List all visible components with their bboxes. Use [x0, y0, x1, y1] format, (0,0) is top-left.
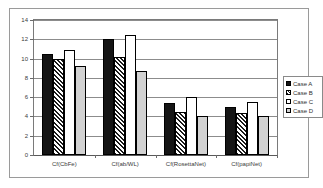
bar — [64, 50, 75, 155]
bar — [236, 113, 247, 155]
y-axis-tick-label: 4 — [25, 113, 28, 119]
bar — [197, 116, 208, 155]
legend-swatch-icon — [286, 90, 291, 95]
legend-item[interactable]: Case B — [286, 88, 321, 97]
legend-item[interactable]: Case A — [286, 79, 321, 88]
legend-label: Case B — [293, 90, 313, 96]
bar — [53, 59, 64, 155]
y-axis-tick-label: 14 — [21, 17, 28, 23]
y-axis-tick-label: 2 — [25, 133, 28, 139]
x-axis-label: Cf(RosettaNet) — [166, 161, 206, 167]
chart-frame: 02468101214 Cf(CbFe)Cf(ab/WL)Cf(RosettaN… — [9, 8, 309, 178]
bar — [247, 102, 258, 155]
bar — [75, 66, 86, 155]
legend-item[interactable]: Case C — [286, 97, 321, 106]
x-axis-label: Cf(papiNet) — [231, 161, 262, 167]
bar — [225, 107, 236, 155]
legend-label: Case A — [293, 81, 312, 87]
legend-label: Case D — [293, 108, 313, 114]
y-axis-tick-label: 10 — [21, 56, 28, 62]
legend-label: Case C — [293, 99, 313, 105]
bar — [186, 97, 197, 155]
legend-swatch-icon — [286, 108, 291, 113]
bar — [42, 54, 53, 155]
x-axis-tick — [156, 155, 157, 158]
x-axis-tick — [277, 155, 278, 158]
bar — [175, 112, 186, 155]
plot-area: 02468101214 Cf(CbFe)Cf(ab/WL)Cf(RosettaN… — [33, 19, 278, 156]
bar — [164, 103, 175, 155]
bar-group — [34, 20, 95, 155]
x-axis-tick — [95, 155, 96, 158]
x-axis-tick — [216, 155, 217, 158]
bar — [103, 39, 114, 155]
y-axis-tick-label: 8 — [25, 75, 28, 81]
x-axis-label: Cf(CbFe) — [52, 161, 77, 167]
y-axis-tick-label: 12 — [21, 36, 28, 42]
bar-group — [156, 20, 217, 155]
legend-swatch-icon — [286, 81, 291, 86]
legend-swatch-icon — [286, 99, 291, 104]
bar — [258, 116, 269, 155]
bar — [125, 35, 136, 155]
chart-legend: Case ACase BCase CCase D — [283, 76, 323, 118]
y-axis-tick-label: 6 — [25, 94, 28, 100]
y-axis-tick-label: 0 — [25, 152, 28, 158]
x-axis-label: Cf(ab/WL) — [111, 161, 138, 167]
bar — [136, 71, 147, 155]
legend-item[interactable]: Case D — [286, 106, 321, 115]
bar — [114, 57, 125, 155]
y-axis-tick — [30, 155, 34, 156]
bar-series-layer — [34, 20, 277, 155]
bar-group — [216, 20, 277, 155]
bar-group — [95, 20, 156, 155]
